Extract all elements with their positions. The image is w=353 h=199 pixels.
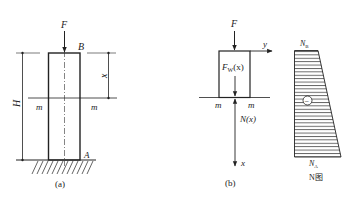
axial-force-diagram: F B H x m m <box>0 0 353 199</box>
sign-label: − <box>305 97 310 106</box>
section-label-right: m <box>248 100 255 110</box>
free-body-segment <box>219 51 250 98</box>
n-diagram-fill <box>295 51 342 158</box>
top-value-label: NB <box>299 39 309 49</box>
section-label-right: m <box>91 102 98 112</box>
ground-hatching <box>32 161 93 174</box>
distance-label: x <box>98 73 109 79</box>
force-label: F <box>60 19 68 30</box>
internal-force-label: N(x) <box>239 114 256 124</box>
y-axis-label: y <box>262 39 267 49</box>
n-diagram: − NB NA N图 <box>295 39 342 182</box>
force-label: F <box>230 18 238 29</box>
caption-b: (b) <box>225 178 236 188</box>
height-label: H <box>11 99 22 108</box>
bottom-value-label: NA <box>308 159 318 169</box>
section-label-left: m <box>215 100 222 110</box>
weight-label: FW(x) <box>221 62 244 73</box>
bottom-label: A <box>83 150 90 160</box>
n-diagram-title: N图 <box>309 173 323 182</box>
x-axis-label: x <box>240 158 245 168</box>
figure-b: F y FW(x) m m N(x) x (b) <box>199 18 272 188</box>
section-label-left: m <box>36 102 43 112</box>
figure-a: F B H x m m <box>11 19 117 189</box>
top-label: B <box>78 41 84 52</box>
caption-a: (a) <box>55 179 65 189</box>
